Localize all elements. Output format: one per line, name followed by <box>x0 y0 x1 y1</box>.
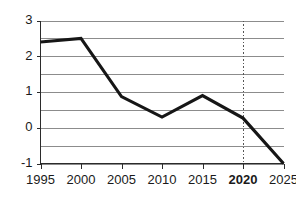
chart-background <box>0 0 296 201</box>
x-axis-label-1995: 1995 <box>26 172 55 187</box>
y-axis-label-1: 1 <box>25 83 32 98</box>
y-axis-label-2: 2 <box>25 48 32 63</box>
x-axis-label-2000: 2000 <box>67 172 96 187</box>
chart-canvas: -10123 1995200020052010201520202025 <box>0 0 296 201</box>
x-axis-label-2010: 2010 <box>148 172 177 187</box>
x-axis-label-2005: 2005 <box>107 172 136 187</box>
line-chart: -10123 1995200020052010201520202025 <box>0 0 296 201</box>
y-axis-label--1: -1 <box>21 155 33 170</box>
x-axis-label-2015: 2015 <box>188 172 217 187</box>
y-axis-label-3: 3 <box>25 12 32 27</box>
x-axis-label-2025: 2025 <box>269 172 296 187</box>
x-axis-label-2020: 2020 <box>229 172 258 187</box>
y-axis-label-0: 0 <box>25 119 32 134</box>
x-axis-labels: 1995200020052010201520202025 <box>26 172 296 187</box>
